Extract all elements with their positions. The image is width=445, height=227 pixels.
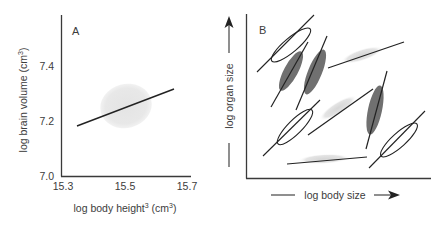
- panel-a-ytick-7.4: 7.4: [39, 60, 54, 72]
- panel-a-xtick-15.3: 15.3: [53, 180, 74, 192]
- open-ellipse-middle-left: [273, 105, 317, 149]
- panel-a-label: A: [72, 25, 80, 37]
- panel-b: B log organ size log body size: [223, 14, 431, 201]
- panel-b-xlabel-group: log body size: [271, 189, 400, 201]
- panel-a-ylabel: log brain volume (cm3): [17, 48, 29, 153]
- panel-a-xtick-15.5: 15.5: [115, 180, 136, 192]
- panel-b-ylabel-group: log organ size: [223, 16, 235, 167]
- panel-a-ytick-7.2: 7.2: [39, 115, 54, 127]
- panel-b-label: B: [259, 24, 266, 36]
- open-ellipse-lower-right: [376, 119, 421, 162]
- dark-ellipse-middle-right: [363, 84, 387, 136]
- evo-line-center: [308, 89, 373, 135]
- grey-cloud-center: [316, 91, 360, 124]
- dark-ellipse-upper-middle-axis: [296, 36, 327, 110]
- panel-a-data-cloud: [95, 78, 157, 134]
- figure: A 7.4 7.2 7.0 15.3 15.5 15.7 log body he…: [0, 0, 445, 227]
- panel-b-xlabel: log body size: [304, 189, 365, 201]
- open-ellipse-middle-left-axis: [263, 100, 320, 156]
- panel-a: A 7.4 7.2 7.0 15.3 15.5 15.7 log body he…: [17, 15, 197, 214]
- panel-a-xtick-15.7: 15.7: [177, 180, 198, 192]
- grey-cloud-upper-right: [339, 42, 385, 67]
- panel-a-xlabel: log body height3 (cm3): [74, 202, 177, 214]
- panel-b-ylabel: log organ size: [223, 63, 235, 129]
- evo-line-upper-right: [328, 42, 404, 68]
